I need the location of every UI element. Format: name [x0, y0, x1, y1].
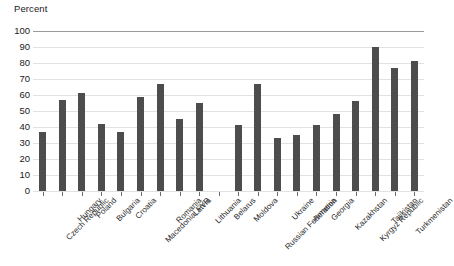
y-tick-label: 100 [4, 26, 30, 36]
y-tick-label: 10 [4, 170, 30, 180]
bar[interactable] [235, 125, 242, 191]
gridline [33, 47, 424, 48]
bar[interactable] [137, 97, 144, 191]
plot-area [33, 31, 424, 191]
bar[interactable] [254, 84, 261, 191]
bar[interactable] [59, 100, 66, 191]
y-tick-label: 0 [4, 186, 30, 196]
gridline [33, 95, 424, 96]
gridline [33, 127, 424, 128]
y-axis-title: Percent [14, 3, 47, 14]
y-tick-label: 50 [4, 106, 30, 116]
bar[interactable] [117, 132, 124, 191]
bar[interactable] [333, 114, 340, 191]
bar[interactable] [196, 103, 203, 191]
bar[interactable] [274, 138, 281, 191]
bar[interactable] [411, 61, 418, 191]
y-tick-label: 70 [4, 74, 30, 84]
y-tick-label: 90 [4, 42, 30, 52]
x-tick-label: Moldova [252, 196, 280, 224]
bar[interactable] [157, 84, 164, 191]
y-tick-label: 40 [4, 122, 30, 132]
gridline [33, 31, 424, 32]
gridline [33, 175, 424, 176]
gridline [33, 159, 424, 160]
bar[interactable] [372, 47, 379, 191]
y-tick-label: 80 [4, 58, 30, 68]
gridline [33, 143, 424, 144]
gridline [33, 111, 424, 112]
bar[interactable] [176, 119, 183, 191]
y-axis-ticks: 0102030405060708090100 [0, 31, 30, 191]
bar[interactable] [313, 125, 320, 191]
gridline [33, 191, 424, 192]
bar[interactable] [293, 135, 300, 191]
y-tick-label: 30 [4, 138, 30, 148]
x-tick-label: Kazakhstan [353, 196, 389, 232]
bar[interactable] [98, 124, 105, 191]
bar[interactable] [352, 101, 359, 191]
y-tick-label: 20 [4, 154, 30, 164]
gridline [33, 63, 424, 64]
y-tick-label: 60 [4, 90, 30, 100]
bar[interactable] [78, 93, 85, 191]
bar[interactable] [391, 68, 398, 191]
x-axis-labels: Czech RepublicHungaryPolandBulgariaCroat… [33, 196, 424, 266]
gridline [33, 79, 424, 80]
bar[interactable] [39, 132, 46, 191]
